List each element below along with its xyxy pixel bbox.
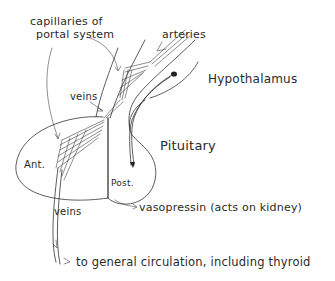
upper-capillary-network	[104, 62, 150, 118]
pituitary-diagram: capillaries of portal system arteries Hy…	[0, 0, 335, 281]
label-hypothalamus: Hypothalamus	[208, 72, 297, 86]
lower-capillary-network	[56, 120, 104, 180]
label-veins-lower: veins	[54, 206, 81, 217]
label-posterior: Post.	[111, 178, 134, 188]
label-arteries: arteries	[162, 28, 206, 41]
label-anterior: Ant.	[24, 159, 45, 170]
label-general-circulation: to general circulation, including thyroi…	[76, 255, 311, 269]
label-capillaries-line1: capillaries of	[30, 15, 103, 28]
label-pituitary: Pituitary	[160, 138, 216, 153]
label-vasopressin: vasopressin (acts on kidney)	[139, 201, 302, 214]
label-veins-upper: veins	[70, 91, 97, 102]
label-capillaries-line2: portal system	[36, 28, 114, 41]
neurosecretory-axon	[130, 71, 177, 168]
